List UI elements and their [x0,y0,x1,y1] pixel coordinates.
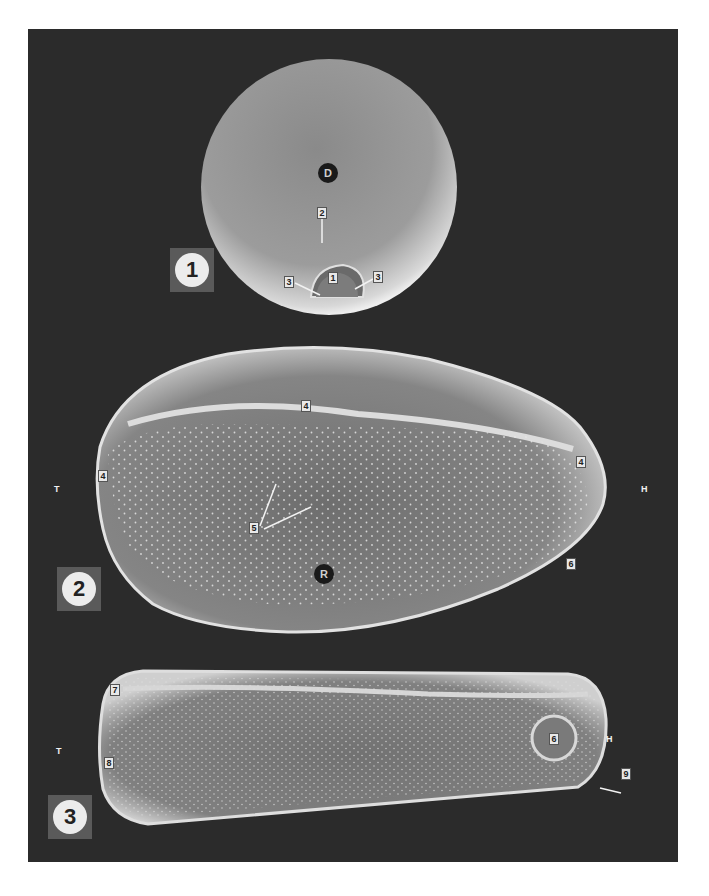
orientation-tail-fig3: T [56,746,62,756]
callout-4-right: 4 [576,456,586,468]
callout-5: 5 [249,522,259,534]
figure-number-badge-3: 3 [48,795,92,839]
figure-number-badge-1: 1 [170,248,214,292]
figure-number-badge-2: 2 [57,567,101,611]
callout-3-left: 3 [284,276,294,288]
callout-7: 7 [110,684,120,696]
figure-number-1: 1 [175,253,209,287]
figure-number-2: 2 [62,572,96,606]
callout-4-top: 4 [301,400,311,412]
figure-plate: 1 2 3 D R T H T H 1 2 3 3 4 4 4 5 6 7 8 … [28,29,678,862]
callout-2: 2 [317,207,327,219]
callout-9: 9 [621,768,631,780]
orientation-head-fig3: H [606,734,613,744]
orientation-head-fig2: H [641,484,648,494]
specimen-3-cylindrical [100,671,607,824]
callout-3-right: 3 [373,271,383,283]
specimen-2-elongate [97,348,605,633]
view-label-right: R [314,564,334,584]
callout-4-left: 4 [98,470,108,482]
specimen-micrographs [28,29,678,862]
callout-6-fig3: 6 [549,733,559,745]
callout-1-micropyle: 1 [328,272,338,284]
figure-number-3: 3 [53,800,87,834]
orientation-tail-fig2: T [54,484,60,494]
callout-8: 8 [104,757,114,769]
callout-6-fig2: 6 [566,558,576,570]
view-label-dorsal: D [318,163,338,183]
